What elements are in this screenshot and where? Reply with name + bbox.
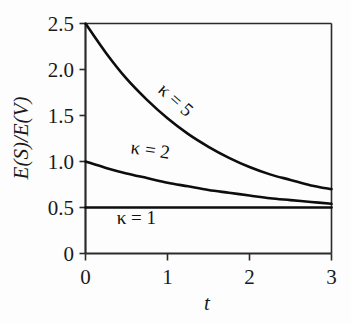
figure-container: 2.5 2.0 1.5 1.0 0.5 0 0 1 2 3 t E(S)/E(V…: [0, 0, 351, 324]
chart-canvas: 2.5 2.0 1.5 1.0 0.5 0 0 1 2 3 t E(S)/E(V…: [0, 0, 351, 324]
x-tick-label-1: 1: [162, 265, 173, 289]
x-tick-label-0: 0: [80, 265, 91, 289]
curve-label-kappa-5: κ = 5: [154, 79, 197, 121]
y-tick-label-1_0: 1.0: [48, 150, 74, 174]
y-tick-label-1_5: 1.5: [48, 104, 74, 128]
y-tick-label-2_5: 2.5: [48, 12, 74, 36]
y-tick-label-0_5: 0.5: [48, 196, 74, 220]
x-tick-label-2: 2: [244, 265, 255, 289]
curve-kappa-5: [86, 24, 332, 190]
data-curves: [86, 24, 332, 208]
y-axis-title: E(S)/E(V): [9, 97, 33, 181]
y-tick-label-0: 0: [64, 242, 75, 266]
y-tick-label-2_0: 2.0: [48, 58, 74, 82]
x-tick-labels: 0 1 2 3: [80, 265, 337, 289]
x-axis-title: t: [204, 291, 211, 315]
y-tick-labels: 2.5 2.0 1.5 1.0 0.5 0: [48, 12, 74, 266]
curve-label-kappa-1: κ = 1: [117, 207, 156, 228]
x-tick-label-3: 3: [326, 265, 337, 289]
curve-label-kappa-2: κ = 2: [129, 136, 171, 162]
curve-kappa-2: [86, 162, 332, 204]
